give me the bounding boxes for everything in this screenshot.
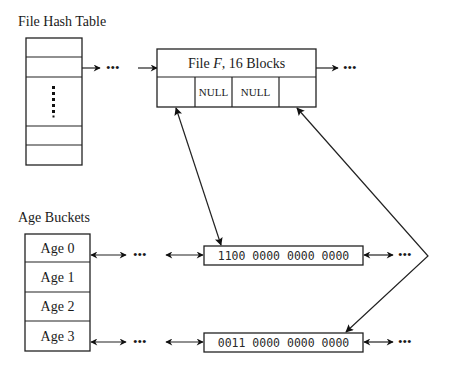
hash-table-title: File Hash Table (18, 14, 106, 29)
age-bucket-3: Age 3 (41, 329, 75, 344)
bitmap-age0: 1100 0000 0000 0000 (204, 246, 363, 265)
file-record: File F, 16 Blocks NULL NULL (157, 49, 316, 107)
bitmap-age3: 0011 0000 0000 0000 (204, 333, 363, 352)
file-record-title: File F, 16 Blocks (188, 56, 285, 71)
age0-chain: ••• (91, 247, 203, 262)
bitmap-age3-bits: 0011 0000 0000 0000 (218, 336, 350, 350)
file-chain-ellipsis: ••• (343, 60, 357, 75)
file-chain-arrow: ••• (316, 60, 357, 75)
hash-chain-arrow: ••• (82, 60, 157, 75)
age-bucket-1: Age 1 (41, 270, 75, 285)
age-buckets: Age 0 Age 1 Age 2 Age 3 (25, 234, 90, 351)
bitmap-age3-chain: ••• (364, 334, 412, 349)
bitmap-age0-chain: ••• (364, 247, 412, 262)
file-block-cell-null: NULL (199, 86, 229, 98)
age-bucket-2: Age 2 (41, 299, 75, 314)
file-block-cell-null: NULL (241, 86, 271, 98)
age-bucket-0: Age 0 (41, 241, 75, 256)
bitmap-age3-ellipsis: ••• (398, 334, 412, 349)
age-buckets-title: Age Buckets (18, 210, 90, 225)
hash-table (26, 38, 82, 165)
diagram-canvas: File Hash Table ••• File F, 16 Blocks NU… (0, 0, 449, 375)
bitmap-age0-ellipsis: ••• (398, 247, 412, 262)
bitmap-age0-bits: 1100 0000 0000 0000 (218, 249, 350, 263)
hash-chain-ellipsis: ••• (106, 60, 120, 75)
age3-chain-ellipsis: ••• (133, 334, 147, 349)
age0-chain-ellipsis: ••• (133, 247, 147, 262)
age3-chain: ••• (91, 334, 203, 349)
file-block-to-bitmap-age0-link (176, 108, 221, 245)
file-block-to-bitmap-age3-link (297, 108, 428, 332)
